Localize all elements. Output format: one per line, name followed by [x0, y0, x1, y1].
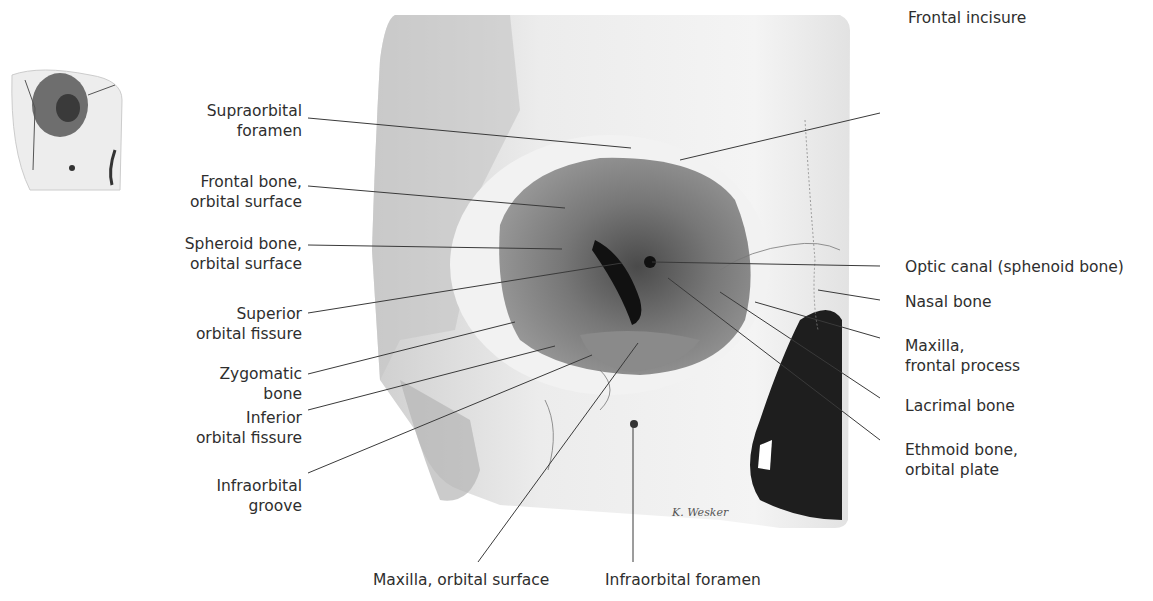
label-maxilla-orbital-surface: Maxilla, orbital surface: [373, 570, 549, 590]
label-supraorbital-foramen: Supraorbital foramen: [207, 101, 302, 141]
label-sphenoid-bone-orbital-surface: Spheroid bone, orbital surface: [185, 234, 302, 274]
label-ethmoid-bone-orbital-plate: Ethmoid bone, orbital plate: [905, 440, 1018, 480]
label-optic-canal: Optic canal (sphenoid bone): [905, 257, 1124, 277]
skull-body: K. Wesker: [372, 15, 850, 528]
label-frontal-bone-orbital-surface: Frontal bone, orbital surface: [190, 172, 302, 212]
label-maxilla-frontal-process: Maxilla, frontal process: [905, 336, 1020, 376]
artist-signature: K. Wesker: [671, 506, 729, 519]
label-lacrimal-bone: Lacrimal bone: [905, 396, 1015, 416]
label-zygomatic-bone: Zygomatic bone: [219, 364, 302, 404]
orientation-thumbnail: [12, 70, 122, 190]
label-infraorbital-groove: Infraorbital groove: [216, 476, 302, 516]
label-nasal-bone: Nasal bone: [905, 292, 992, 312]
label-superior-orbital-fissure: Superior orbital fissure: [196, 304, 302, 344]
label-inferior-orbital-fissure: Inferior orbital fissure: [196, 408, 302, 448]
label-frontal-incisure-text: Frontal incisure: [908, 8, 1026, 28]
label-infraorbital-foramen: Infraorbital foramen: [605, 570, 761, 590]
